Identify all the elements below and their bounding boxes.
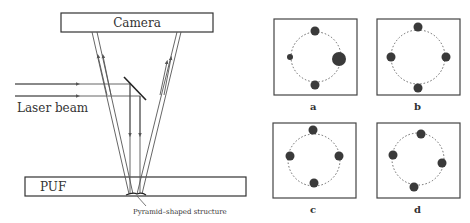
- pattern-a: a: [274, 19, 357, 112]
- pattern-label-a: a: [310, 101, 317, 112]
- camera-box: Camera: [61, 13, 213, 32]
- pattern-label-c: c: [310, 204, 316, 215]
- structure-label: Pyramid–shaped structure: [133, 208, 227, 216]
- optical-setup-diagram: Camera PUF Pyramid–shaped structure Lase…: [0, 0, 470, 223]
- mirror: [124, 77, 146, 100]
- pattern-label-d: d: [414, 204, 421, 215]
- pattern-c: c: [273, 123, 356, 215]
- laser-label: Laser beam: [17, 101, 89, 115]
- pattern-d: d: [377, 123, 460, 215]
- structure-pointer: [137, 196, 146, 206]
- reflected-beams: [92, 32, 181, 194]
- pattern-label-b: b: [414, 101, 421, 112]
- pattern-b: b: [377, 19, 460, 112]
- camera-label: Camera: [113, 16, 161, 30]
- puf-label: PUF: [40, 180, 66, 194]
